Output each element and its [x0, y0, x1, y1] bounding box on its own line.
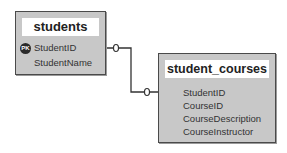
table-title: student_courses	[165, 60, 269, 78]
field-studentname[interactable]: StudentName	[34, 57, 92, 68]
field-studentid[interactable]: StudentID	[34, 42, 76, 53]
cardinality-zero-icon-from	[114, 45, 119, 52]
field-courseinstructor[interactable]: CourseInstructor	[183, 126, 253, 137]
table-student-courses[interactable]: student_courses StudentID CourseID Cours…	[158, 53, 276, 143]
table-students[interactable]: students PK StudentID StudentName	[15, 11, 106, 75]
field-coursedescription[interactable]: CourseDescription	[183, 113, 261, 124]
table-title: students	[22, 18, 99, 36]
field-courseid[interactable]: CourseID	[183, 100, 223, 111]
primary-key-icon: PK	[20, 43, 31, 54]
field-studentid[interactable]: StudentID	[183, 87, 225, 98]
cardinality-zero-icon-to	[145, 89, 150, 96]
